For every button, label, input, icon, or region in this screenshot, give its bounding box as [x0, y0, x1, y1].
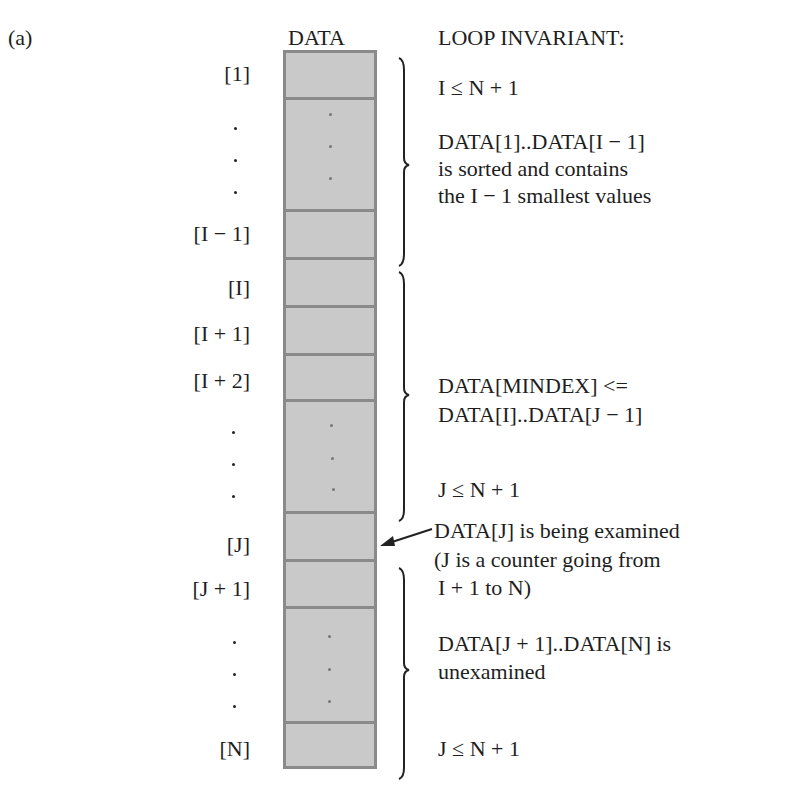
annotation-text: I + 1 to N)	[438, 576, 531, 600]
annotation-text: DATA[I]..DATA[J − 1]	[438, 403, 642, 427]
brace-unexamined-region	[399, 568, 409, 779]
arrow-head-icon	[380, 536, 395, 546]
annotation-text: the I − 1 smallest values	[438, 184, 651, 208]
annotation-text: DATA[MINDEX] <=	[438, 374, 628, 398]
annotation-text: unexamined	[438, 660, 546, 684]
annotation-text: DATA[1]..DATA[I − 1]	[438, 130, 645, 154]
brace-sorted-region	[399, 58, 409, 266]
annotation-text: (J is a counter going from	[434, 548, 661, 572]
annotation-text: I ≤ N + 1	[438, 76, 519, 100]
annotation-text: DATA[J] is being examined	[434, 519, 680, 543]
annotation-text: J ≤ N + 1	[438, 478, 520, 502]
braces-and-arrow	[0, 0, 795, 791]
arrow-line	[392, 529, 432, 542]
annotation-text: DATA[J + 1]..DATA[N] is	[438, 632, 671, 656]
annotation-text: is sorted and contains	[438, 157, 628, 181]
brace-min-region	[399, 272, 409, 521]
annotation-text: J ≤ N + 1	[438, 737, 520, 761]
